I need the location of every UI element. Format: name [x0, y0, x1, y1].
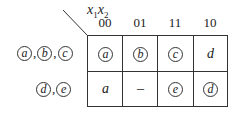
cell-r2-00: a — [88, 71, 123, 107]
state-d-label: d — [36, 82, 51, 97]
circled-e: e — [168, 82, 183, 97]
column-header-11: 11 — [157, 15, 193, 31]
circled-a: a — [98, 47, 113, 62]
column-header-10: 10 — [192, 15, 228, 31]
separator: , — [52, 81, 55, 97]
row-label-1: a, b, c — [17, 45, 73, 61]
column-header-00: 00 — [87, 15, 123, 31]
circled-c: c — [168, 47, 183, 62]
cell-r1-11: c — [158, 36, 193, 72]
cell-r1-01: b — [123, 36, 158, 72]
cell-r2-10: d — [193, 71, 228, 107]
circled-d: d — [203, 82, 218, 97]
row-label-2: d, e — [36, 81, 71, 97]
cell-r2-11: e — [158, 71, 193, 107]
column-header-01: 01 — [122, 15, 158, 31]
cell-r1-10: d — [193, 36, 228, 72]
state-e-label: e — [56, 82, 71, 97]
karnaugh-map-grid: a b c d a – e d — [87, 35, 228, 107]
cell-r2-01: – — [123, 71, 158, 107]
state-b-label: b — [37, 46, 52, 61]
state-c-label: c — [58, 46, 73, 61]
separator: , — [53, 45, 56, 61]
circled-b: b — [133, 47, 148, 62]
cell-r1-00: a — [88, 36, 123, 72]
separator: , — [33, 45, 36, 61]
state-a-label: a — [17, 46, 32, 61]
